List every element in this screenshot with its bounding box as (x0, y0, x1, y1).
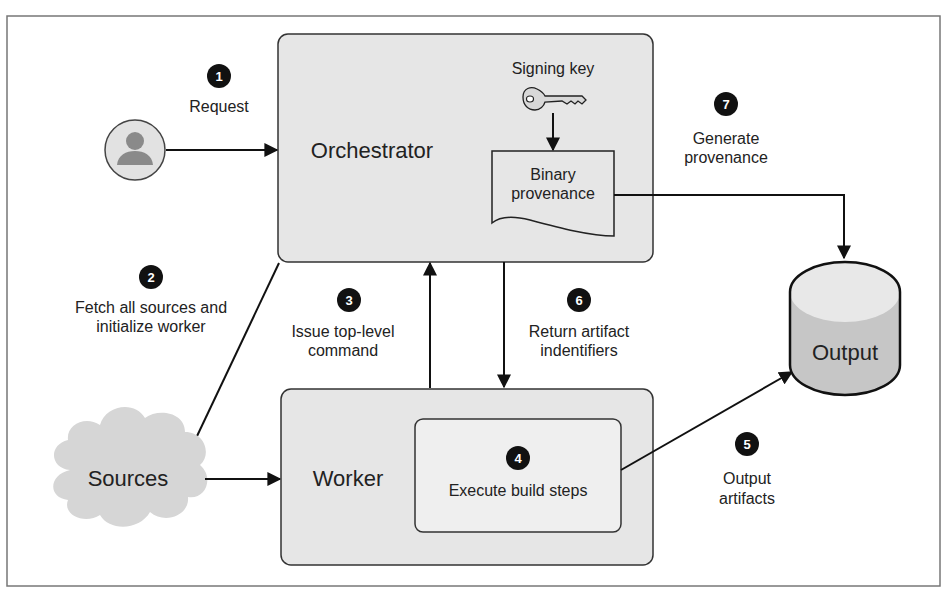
step-5-label-line1: Output (723, 470, 772, 487)
svg-text:3: 3 (345, 293, 352, 308)
step-6-label-line1: Return artifact (529, 323, 630, 340)
step-2-label-line2: initialize worker (96, 318, 206, 335)
binary-provenance-line1: Binary (530, 166, 575, 183)
step-7-badge: 7 (714, 92, 738, 116)
step-2-badge: 2 (139, 265, 163, 289)
svg-text:2: 2 (147, 270, 154, 285)
sources-label: Sources (88, 466, 169, 491)
signing-key-label: Signing key (512, 60, 595, 77)
database-cylinder-icon[interactable] (790, 262, 900, 395)
step-1-badge: 1 (207, 64, 231, 88)
execute-build-steps-box[interactable] (415, 419, 621, 532)
svg-text:7: 7 (722, 97, 729, 112)
output-label: Output (812, 340, 878, 365)
binary-provenance-line2: provenance (511, 185, 595, 202)
step-3-badge: 3 (337, 288, 361, 312)
step-7-label-line2: provenance (684, 149, 768, 166)
orchestrator-label: Orchestrator (311, 138, 433, 163)
step-4-badge: 4 (506, 446, 530, 470)
worker-label: Worker (313, 466, 384, 491)
provenance-diagram: Orchestrator Signing key Binary provenan… (0, 0, 948, 597)
user-icon[interactable] (105, 120, 165, 180)
step-2-label-line1: Fetch all sources and (75, 299, 227, 316)
step-5-badge: 5 (735, 432, 759, 456)
svg-text:1: 1 (215, 69, 222, 84)
execute-build-steps-label: Execute build steps (449, 482, 588, 499)
svg-text:6: 6 (575, 293, 582, 308)
svg-text:4: 4 (514, 451, 522, 466)
step-7-label-line1: Generate (693, 130, 760, 147)
step-1-label: Request (189, 98, 249, 115)
step-3-label-line1: Issue top-level (291, 323, 394, 340)
step-5-label-line2: artifacts (719, 490, 775, 507)
step-6-badge: 6 (567, 288, 591, 312)
svg-text:5: 5 (743, 437, 750, 452)
step-6-label-line2: indentifiers (540, 342, 617, 359)
step-3-label-line2: command (308, 342, 378, 359)
